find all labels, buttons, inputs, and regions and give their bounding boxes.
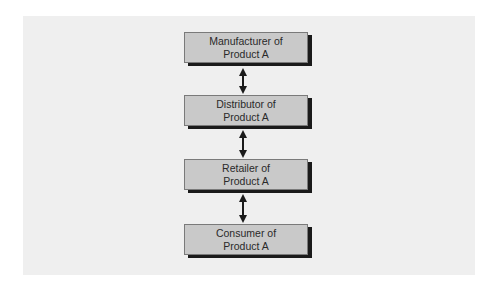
node-manufacturer: Manufacturer of Product A xyxy=(184,32,308,63)
node-label-line2: Product A xyxy=(223,111,269,124)
node-label-line1: Distributor of xyxy=(216,98,276,111)
node-distributor: Distributor of Product A xyxy=(184,95,308,126)
node-label-line1: Manufacturer of xyxy=(209,35,283,48)
node-label-line2: Product A xyxy=(223,175,269,188)
arrow-down-icon xyxy=(239,150,247,158)
node-label-line1: Retailer of xyxy=(222,162,270,175)
node-label-line2: Product A xyxy=(223,48,269,61)
node-label-line1: Consumer of xyxy=(216,227,276,240)
node-retailer: Retailer of Product A xyxy=(184,159,308,190)
arrow-down-icon xyxy=(239,215,247,223)
node-consumer: Consumer of Product A xyxy=(184,224,308,255)
arrow-down-icon xyxy=(239,86,247,94)
node-label-line2: Product A xyxy=(223,240,269,253)
